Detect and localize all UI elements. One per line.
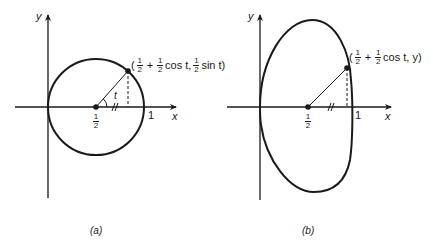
frac1-num-a: 1	[137, 57, 141, 65]
paren-open-a: (	[131, 60, 135, 71]
caption-b: (b)	[302, 226, 314, 236]
frac1-num-b: 1	[355, 49, 359, 57]
angle-arc-a	[103, 99, 107, 107]
y-axis-label-a: y	[36, 11, 42, 22]
tick-half-a: 12	[92, 113, 100, 130]
point-label-b: ( 12 + 12 cos t, y)	[349, 49, 422, 66]
cos-part-a: cos t,	[165, 60, 191, 71]
x-axis-label-a: x	[172, 111, 178, 122]
angle-label-t: t	[114, 91, 117, 101]
tick-half-b: 12	[304, 113, 312, 130]
half-num-b: 1	[306, 113, 310, 121]
radius-line-b	[308, 68, 347, 107]
frac1-den-b: 2	[355, 58, 359, 66]
figure-canvas	[0, 0, 433, 245]
frac3-den-a: 2	[194, 66, 198, 74]
frac2-den-b: 2	[376, 58, 380, 66]
frac2-num-a: 1	[158, 57, 162, 65]
paren-open-b: (	[349, 52, 353, 63]
frac1-den-a: 2	[137, 66, 141, 74]
frac2-num-b: 1	[376, 49, 380, 57]
panel-a	[15, 15, 176, 198]
point-dot-b	[344, 65, 350, 71]
frac2-den-a: 2	[158, 66, 162, 74]
point-label-a: ( 12 + 12 cos t, 12 sin t)	[131, 57, 225, 74]
radius-line-a	[96, 71, 128, 107]
tick-one-a: 1	[148, 110, 154, 121]
plus-b: +	[365, 52, 371, 63]
x-axis-label-b: x	[385, 111, 391, 122]
caption-a: (a)	[90, 226, 102, 236]
half-den-b: 2	[306, 122, 310, 130]
plus-a: +	[147, 60, 153, 71]
panel-b	[227, 15, 391, 200]
frac3-num-a: 1	[194, 57, 198, 65]
center-dot-b	[305, 104, 311, 110]
center-dot-a	[93, 104, 99, 110]
sin-part-a: sin t)	[201, 60, 225, 71]
cos-part-b: cos t, y)	[383, 52, 422, 63]
tick-one-b: 1	[355, 110, 361, 121]
point-dot-a	[125, 68, 131, 74]
half-den-a: 2	[94, 122, 98, 130]
half-num-a: 1	[94, 113, 98, 121]
y-axis-label-b: y	[248, 11, 254, 22]
